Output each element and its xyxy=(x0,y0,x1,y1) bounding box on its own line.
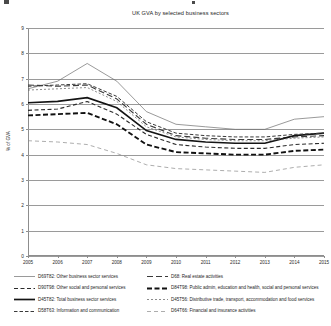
y-tick-label: 4 xyxy=(21,152,24,157)
legend-item-d58t63[interactable]: D58T63: Information and communication xyxy=(14,306,154,318)
y-axis-title: % of GVA xyxy=(6,131,11,151)
x-tick-label: 2007 xyxy=(82,260,92,265)
series-line-d69t82 xyxy=(28,63,324,129)
legend-item-d84t98[interactable]: D84T98: Public admin, education and heal… xyxy=(147,283,331,295)
y-tick-label: 7 xyxy=(21,76,24,81)
legend-item-d45t82[interactable]: D45T82: Total business sector services xyxy=(14,294,154,306)
x-tick-label: 2013 xyxy=(260,260,270,265)
chart-legend: D69T82: Other business sector servicesD9… xyxy=(8,271,328,326)
artifact-mark xyxy=(4,0,9,4)
x-tick-label: 2011 xyxy=(201,260,211,265)
x-tick-label: 2015 xyxy=(319,260,329,265)
legend-item-d90t98[interactable]: D90T98: Other social and personal servic… xyxy=(14,283,154,295)
series-line-d68 xyxy=(28,85,324,139)
legend-label: D58T63: Information and communication xyxy=(38,309,119,314)
y-tick-label: 0 xyxy=(21,254,24,259)
legend-swatch-d45t82 xyxy=(14,296,35,303)
legend-column-left: D69T82: Other business sector servicesD9… xyxy=(14,271,154,317)
legend-swatch-d68 xyxy=(147,273,168,280)
series-line-d90t98 xyxy=(28,101,324,148)
x-tick-mark xyxy=(176,256,177,258)
legend-swatch-d45t56 xyxy=(147,296,168,303)
legend-swatch-d90t98 xyxy=(14,285,35,292)
x-tick-mark xyxy=(146,256,147,258)
x-tick-label: 2012 xyxy=(230,260,240,265)
legend-item-d64t66[interactable]: D64T66: Financial and insurance activiti… xyxy=(147,306,331,318)
series-line-d58t63 xyxy=(28,84,324,137)
x-tick-mark xyxy=(294,256,295,258)
legend-swatch-d64t66 xyxy=(147,308,168,315)
legend-item-d68[interactable]: D68: Real estate activities xyxy=(147,271,331,283)
x-tick-label: 2010 xyxy=(171,260,181,265)
y-tick-label: 8 xyxy=(21,51,24,56)
x-tick-mark xyxy=(117,256,118,258)
series-lines xyxy=(28,28,324,256)
x-tick-label: 2005 xyxy=(23,260,33,265)
legend-label: D90T98: Other social and personal servic… xyxy=(38,286,126,291)
legend-label: D45T56: Distributive trade, transport, a… xyxy=(171,298,314,303)
x-tick-mark xyxy=(87,256,88,258)
artifact-mark xyxy=(192,1,195,4)
y-tick-label: 6 xyxy=(21,102,24,107)
x-tick-mark xyxy=(324,256,325,258)
legend-label: D64T66: Financial and insurance activiti… xyxy=(171,309,256,314)
x-tick-label: 2009 xyxy=(141,260,151,265)
legend-label: D68: Real estate activities xyxy=(171,275,223,280)
y-tick-label: 3 xyxy=(21,178,24,183)
legend-item-d69t82[interactable]: D69T82: Other business sector services xyxy=(14,271,154,283)
legend-swatch-d69t82 xyxy=(14,273,35,280)
series-line-d45t82 xyxy=(28,98,324,144)
x-tick-label: 2014 xyxy=(289,260,299,265)
y-tick-label: 9 xyxy=(21,26,24,31)
legend-item-d45t56[interactable]: D45T56: Distributive trade, transport, a… xyxy=(147,294,331,306)
x-tick-mark xyxy=(265,256,266,258)
x-tick-mark xyxy=(206,256,207,258)
legend-column-right: D68: Real estate activitiesD84T98: Publi… xyxy=(147,271,331,317)
y-tick-label: 2 xyxy=(21,203,24,208)
plot-area: 0123456789 20052006200720082009201020112… xyxy=(28,28,324,256)
legend-label: D84T98: Public admin, education and heal… xyxy=(171,286,319,291)
x-tick-label: 2008 xyxy=(112,260,122,265)
legend-label: D45T82: Total business sector services xyxy=(38,298,116,303)
series-line-d64t66 xyxy=(28,141,324,173)
legend-label: D69T82: Other business sector services xyxy=(38,275,118,280)
x-tick-mark xyxy=(28,256,29,258)
y-tick-label: 5 xyxy=(21,127,24,132)
series-line-d84t98 xyxy=(28,113,324,155)
x-tick-label: 2006 xyxy=(52,260,62,265)
x-tick-mark xyxy=(58,256,59,258)
y-tick-label: 1 xyxy=(21,228,24,233)
x-tick-mark xyxy=(235,256,236,258)
chart-figure: UK GVA by selected business sectors % of… xyxy=(0,6,331,326)
legend-swatch-d58t63 xyxy=(14,308,35,315)
legend-swatch-d84t98 xyxy=(147,285,168,292)
chart-title: UK GVA by selected business sectors xyxy=(0,10,331,16)
